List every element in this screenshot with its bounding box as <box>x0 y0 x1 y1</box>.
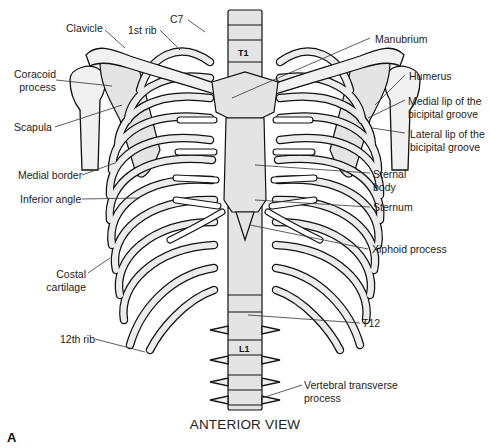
label-clavicle: Clavicle <box>66 22 103 35</box>
label-coracoid-process: Coracoid process <box>6 68 56 93</box>
label-scapula: Scapula <box>14 121 52 134</box>
label-coracoid-line1: Coracoid <box>6 68 56 81</box>
label-humerus: Humerus <box>409 70 452 83</box>
label-sternum: Sternum <box>373 201 413 214</box>
label-twelfth-rib: 12th rib <box>60 333 95 346</box>
label-inferior-angle: Inferior angle <box>20 193 81 206</box>
label-sternal-body: Sternal body <box>373 168 406 193</box>
label-sternal-body-line2: body <box>373 181 406 194</box>
label-costal-line2: cartilage <box>40 281 86 294</box>
label-coracoid-line2: process <box>6 81 56 94</box>
figure-caption: ANTERIOR VIEW <box>0 417 490 432</box>
label-costal-line1: Costal <box>40 268 86 281</box>
label-t12: T12 <box>362 317 380 330</box>
label-lateral-lip-line2: bicipital groove <box>410 141 485 154</box>
label-c7: C7 <box>170 13 183 26</box>
vertebra-t1-label: T1 <box>238 48 249 58</box>
label-medial-lip: Medial lip of the bicipital groove <box>408 95 482 120</box>
label-medial-border: Medial border <box>18 169 82 182</box>
label-vert-trans-line1: Vertebral transverse <box>304 379 398 392</box>
label-first-rib: 1st rib <box>128 24 157 37</box>
label-manubrium: Manubrium <box>375 33 428 46</box>
vertebra-l1-label: L1 <box>239 344 250 354</box>
label-medial-lip-line1: Medial lip of the <box>408 95 482 108</box>
label-vert-trans-line2: process <box>304 392 398 405</box>
panel-letter: A <box>7 430 16 445</box>
label-xiphoid-process: Xiphoid process <box>372 243 447 256</box>
label-vertebral-transverse-process: Vertebral transverse process <box>304 379 398 404</box>
label-lateral-lip-line1: Lateral lip of the <box>410 128 485 141</box>
thorax-skeleton-illustration: T1 L1 <box>0 0 490 448</box>
label-lateral-lip: Lateral lip of the bicipital groove <box>410 128 485 153</box>
label-medial-lip-line2: bicipital groove <box>408 108 482 121</box>
label-costal-cartilage: Costal cartilage <box>40 268 86 293</box>
label-sternal-body-line1: Sternal <box>373 168 406 181</box>
